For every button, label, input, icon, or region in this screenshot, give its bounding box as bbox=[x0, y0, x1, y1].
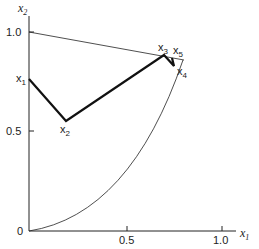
parabola-curve bbox=[29, 60, 183, 231]
diagram-svg bbox=[0, 0, 259, 249]
point-label-x5: x5 bbox=[173, 45, 183, 59]
x-tick-0.5: 0.5 bbox=[119, 235, 134, 246]
point-label-x4: x4 bbox=[177, 66, 187, 80]
y-axis-label: x2 bbox=[18, 2, 27, 17]
point-label-x2: x2 bbox=[60, 124, 70, 138]
y-tick-0.5: 0.5 bbox=[6, 126, 21, 137]
diagram-canvas: x2 x1 1.0 0.5 0 0.5 1.0 x1 x2 x3 x4 x5 bbox=[0, 0, 259, 249]
x-axis-label: x1 bbox=[240, 227, 249, 242]
y-tick-1.0: 1.0 bbox=[6, 27, 21, 38]
y-tick-0: 0 bbox=[17, 226, 23, 237]
point-label-x3: x3 bbox=[158, 42, 168, 56]
iteration-path bbox=[29, 55, 174, 121]
x-tick-1.0: 1.0 bbox=[213, 235, 228, 246]
point-label-x1: x1 bbox=[16, 73, 26, 87]
